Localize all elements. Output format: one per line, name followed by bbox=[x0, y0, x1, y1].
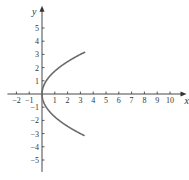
y-tick-label: 1 bbox=[35, 77, 39, 86]
x-tick-label: 1 bbox=[53, 96, 57, 105]
ticks: −2−112345678910−5−4−3−2−112345 bbox=[12, 24, 174, 165]
y-tick-label: 2 bbox=[35, 64, 39, 73]
y-tick-label: −4 bbox=[30, 143, 39, 152]
x-tick-label: 10 bbox=[166, 96, 174, 105]
y-tick-label: 3 bbox=[35, 50, 39, 59]
y-axis-label: y bbox=[31, 6, 37, 17]
x-tick-label: 9 bbox=[155, 96, 159, 105]
x-tick-label: 7 bbox=[130, 96, 134, 105]
y-tick-label: 5 bbox=[35, 24, 39, 33]
y-axis-arrow-icon bbox=[40, 6, 45, 12]
x-tick-label: 8 bbox=[142, 96, 146, 105]
parabola-chart: −2−112345678910−5−4−3−2−112345 x y bbox=[0, 0, 189, 180]
x-tick-label: 6 bbox=[117, 96, 121, 105]
x-tick-label: 5 bbox=[104, 96, 108, 105]
x-tick-label: −2 bbox=[12, 96, 21, 105]
x-tick-label: 3 bbox=[78, 96, 82, 105]
x-axis-label: x bbox=[184, 95, 189, 106]
x-tick-label: 2 bbox=[66, 96, 70, 105]
y-tick-label: −2 bbox=[30, 116, 39, 125]
y-tick-label: −3 bbox=[30, 130, 39, 139]
x-tick-label: 4 bbox=[91, 96, 95, 105]
y-tick-label: −5 bbox=[30, 156, 39, 165]
y-tick-label: 4 bbox=[35, 37, 39, 46]
y-tick-label: −1 bbox=[30, 103, 39, 112]
